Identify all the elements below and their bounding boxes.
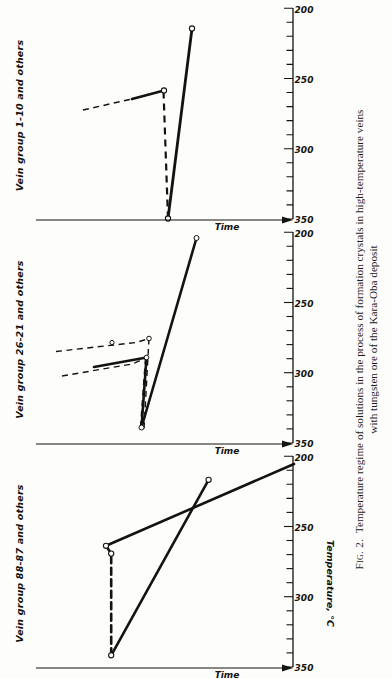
tick-label-250-p1: 250 <box>295 299 314 309</box>
caption-line-1: Temperature regime of solutions in the p… <box>353 110 365 534</box>
axis-minor-ticks <box>284 232 293 443</box>
dashed-branch-1-10 <box>83 91 168 219</box>
trace-svg-88-87 <box>36 452 296 675</box>
tick-label-200-p0: 200 <box>295 453 314 463</box>
time-axis-label-1-10: Time <box>215 222 240 232</box>
time-axis-label-88-87: Time <box>215 670 240 679</box>
caption-line-2: with tungsten ore of the Kara-Oba deposi… <box>366 0 380 679</box>
tick-label-350-p1: 350 <box>295 439 314 449</box>
panel-vein-group-26-21: Vein group 26-21 and others <box>0 228 345 451</box>
plot-canvas-26-21 <box>36 228 296 451</box>
tick-label-250-p2: 250 <box>295 75 314 85</box>
figure-plot-area: Vein group 88-87 and others <box>0 0 345 679</box>
figure-caption: Fig. 2. Temperature regime of solutions … <box>352 0 380 679</box>
temperature-axis-88-87: 350 300 250 200 <box>283 452 323 675</box>
tick-label-300-p0: 300 <box>295 593 314 603</box>
panel-vein-group-88-87: Vein group 88-87 and others <box>0 452 345 675</box>
temperature-axis-1-10: 350 300 250 200 <box>283 4 323 227</box>
solid-trace-26-21 <box>94 238 197 428</box>
dashed-branch-2-26-21 <box>56 339 149 430</box>
panel-title-1-10: Vein group 1-10 and others <box>14 4 25 227</box>
rotated-figure-stage: Vein group 88-87 and others <box>0 0 392 679</box>
tick-label-250-p0: 250 <box>295 523 314 533</box>
trace-svg-1-10 <box>36 4 296 227</box>
data-markers-26-21 <box>110 236 199 431</box>
panel-vein-group-1-10: Vein group 1-10 and others <box>0 4 345 227</box>
temperature-axis-26-21: 350 300 250 200 <box>283 228 323 451</box>
tick-label-350-p0: 350 <box>295 663 314 673</box>
axis-minor-ticks <box>284 8 293 219</box>
axis-minor-ticks <box>284 456 293 667</box>
plot-canvas-88-87 <box>36 452 296 675</box>
tick-label-200-p1: 200 <box>295 229 314 239</box>
time-axis-26-21 <box>34 439 296 451</box>
plot-canvas-1-10 <box>36 4 296 227</box>
figure-number: Fig. 2. <box>353 539 365 570</box>
time-axis-1-10 <box>34 215 296 227</box>
tick-label-200-p2: 200 <box>295 5 314 15</box>
tick-label-300-p2: 300 <box>295 145 314 155</box>
tick-label-300-p1: 300 <box>295 369 314 379</box>
solid-trace-1-10 <box>132 29 192 219</box>
tick-label-350-p2: 350 <box>295 215 314 225</box>
panel-title-88-87: Vein group 88-87 and others <box>14 452 25 675</box>
time-axis-label-26-21: Time <box>215 446 240 456</box>
solid-trace-88-87 <box>106 464 294 655</box>
panel-title-26-21: Vein group 26-21 and others <box>14 228 25 451</box>
trace-svg-26-21 <box>36 228 296 451</box>
temperature-axis-label: Temperature, °C <box>325 540 336 627</box>
time-axis-88-87 <box>34 663 296 675</box>
